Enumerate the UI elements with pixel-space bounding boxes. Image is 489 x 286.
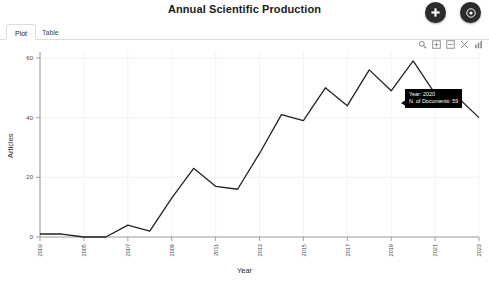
tab-plot[interactable]: Plot xyxy=(6,24,36,40)
tab-bar: Plot Table xyxy=(0,24,489,40)
svg-text:2013: 2013 xyxy=(257,244,263,256)
info-button[interactable] xyxy=(460,2,481,23)
header: Annual Scientific Production xyxy=(0,0,489,24)
svg-text:0: 0 xyxy=(30,234,34,240)
tab-table[interactable]: Table xyxy=(34,24,67,40)
tooltip-year: Year: 2020 xyxy=(409,91,458,98)
y-axis-ticks: 0204060 xyxy=(26,55,40,240)
line-chart[interactable]: 0204060 20032005200720092011201320152017… xyxy=(0,40,489,286)
svg-text:2003: 2003 xyxy=(37,244,43,256)
svg-text:2009: 2009 xyxy=(169,244,175,256)
svg-text:2007: 2007 xyxy=(125,244,131,256)
svg-text:2019: 2019 xyxy=(388,244,394,256)
tooltip-documents: N. of Documents: 59 xyxy=(409,98,458,105)
svg-text:2011: 2011 xyxy=(213,244,219,256)
svg-text:2023: 2023 xyxy=(476,244,482,256)
info-circle-icon xyxy=(465,7,477,19)
plus-icon xyxy=(430,7,441,18)
svg-text:2005: 2005 xyxy=(81,244,87,256)
grid-lines xyxy=(40,52,479,237)
svg-text:40: 40 xyxy=(26,115,33,121)
page-title: Annual Scientific Production xyxy=(0,3,489,15)
svg-text:2017: 2017 xyxy=(345,244,351,256)
hover-tooltip: Year: 2020 N. of Documents: 59 xyxy=(405,89,462,108)
plot-panel: Articles Year 0204060 200320052007200920… xyxy=(0,40,489,286)
x-axis-ticks: 2003200520072009201120132015201720192021… xyxy=(37,237,482,256)
svg-text:2021: 2021 xyxy=(432,244,438,256)
tooltip-arrow xyxy=(401,100,406,106)
svg-text:20: 20 xyxy=(26,174,33,180)
app-root: Annual Scientific Production Plot Table xyxy=(0,0,489,286)
add-button[interactable] xyxy=(425,2,446,23)
header-actions xyxy=(425,2,481,23)
svg-text:60: 60 xyxy=(26,55,33,61)
svg-text:2015: 2015 xyxy=(301,244,307,256)
